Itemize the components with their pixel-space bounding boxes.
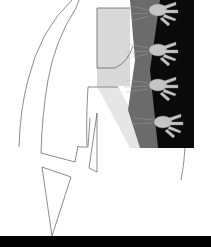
thin-wedge bbox=[89, 113, 97, 172]
triangle-lower bbox=[42, 167, 71, 236]
artwork-svg bbox=[0, 0, 211, 247]
vertical-left bbox=[87, 87, 88, 146]
step-contour bbox=[41, 118, 90, 162]
artwork-canvas bbox=[0, 0, 211, 247]
bottom-bar bbox=[0, 236, 211, 247]
outer-arc bbox=[19, 0, 72, 147]
inner-arc bbox=[41, 0, 79, 153]
light-panel bbox=[97, 8, 130, 86]
right-tail bbox=[181, 148, 185, 180]
